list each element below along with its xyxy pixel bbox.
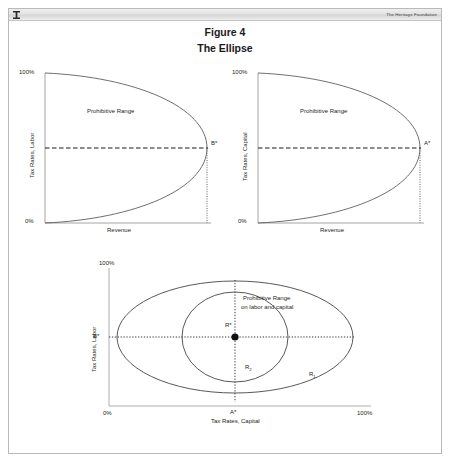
figure-subtitle: The Ellipse xyxy=(9,42,441,54)
y-axis-top-tick: 100% xyxy=(19,69,34,77)
prohibitive-range-label: Prohibitive Range xyxy=(300,108,347,116)
figure-panel: The Heritage Foundation Figure 4 The Ell… xyxy=(8,8,442,454)
x-axis-label: Revenue xyxy=(320,227,344,235)
y-axis-top-tick: 100% xyxy=(99,260,114,268)
brand-label: The Heritage Foundation xyxy=(386,10,437,20)
prohibitive-range-label: Prohibitive Range xyxy=(87,108,134,116)
x-axis-left-tick: 0% xyxy=(103,410,112,418)
chart-laffer-capital-svg xyxy=(228,61,438,246)
prohibitive-range-line1: Prohibitive Range xyxy=(243,295,290,303)
window-chrome-bar: The Heritage Foundation xyxy=(9,9,441,21)
figure-page: The Heritage Foundation Figure 4 The Ell… xyxy=(0,0,450,463)
figure-title: Figure 4 xyxy=(9,26,441,38)
y-axis-top-tick: 100% xyxy=(232,69,247,77)
chart-laffer-labor: 100% 0% Tax Rates, Labor Revenue Prohibi… xyxy=(15,61,225,246)
y-axis-bottom-tick: 0% xyxy=(25,218,34,226)
revenue-maximum-label: R* xyxy=(225,322,232,330)
x-axis-right-tick: 100% xyxy=(357,410,372,418)
revenue-maximum-point xyxy=(231,333,238,340)
b-star-label: B* xyxy=(93,333,99,341)
x-axis-label: Tax Rates, Capital xyxy=(211,418,260,426)
chart-laffer-labor-svg xyxy=(15,61,225,246)
app-glyph-icon xyxy=(13,11,20,19)
chart-ellipse: 100% Tax Rates, Labor B* 0% 100% A* Tax … xyxy=(69,254,399,446)
y-axis-label: Tax Rates, Labor xyxy=(29,133,37,178)
a-star-label: A* xyxy=(230,409,236,417)
inner-ellipse-label: R2 xyxy=(245,364,252,372)
outer-ellipse-label: R1 xyxy=(309,371,316,379)
chart-laffer-capital: 100% 0% Tax Rates, Capital Revenue Prohi… xyxy=(228,61,438,246)
x-axis-label: Revenue xyxy=(107,227,131,235)
y-axis-bottom-tick: 0% xyxy=(238,218,247,226)
peak-point-label: B* xyxy=(211,140,217,148)
y-axis-label: Tax Rates, Capital xyxy=(242,132,250,181)
peak-point-label: A* xyxy=(424,140,430,148)
prohibitive-range-line2: on labor and capital xyxy=(241,304,293,312)
